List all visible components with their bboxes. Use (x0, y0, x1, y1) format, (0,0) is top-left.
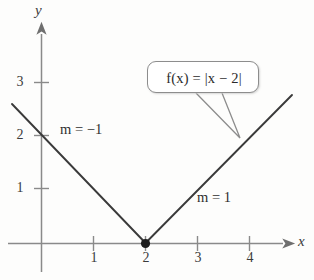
callout-tail (196, 93, 240, 138)
function-callout-text: f(x) = |x − 2| (148, 62, 260, 94)
vertex-point (141, 239, 150, 248)
x-tick-label-4: 4 (239, 250, 261, 266)
function-callout-box: f(x) = |x − 2| (147, 61, 259, 93)
y-tick-label-3: 3 (12, 74, 28, 90)
x-tick-label-3: 3 (187, 250, 209, 266)
x-tick-label-2: 2 (135, 250, 157, 266)
x-axis-label: x (298, 233, 305, 250)
y-axis-label: y (35, 2, 42, 19)
function-right-branch (146, 95, 293, 243)
graph-canvas (0, 0, 314, 280)
x-tick-label-1: 1 (83, 250, 105, 266)
right-slope-label: m = 1 (197, 189, 231, 206)
y-tick-label-2: 2 (12, 127, 28, 143)
left-slope-label: m = −1 (60, 121, 102, 138)
absolute-value-function-figure: y x 1 2 3 4 1 2 3 m = −1 m = 1 f(x) = |x… (0, 0, 314, 280)
y-tick-label-1: 1 (12, 180, 28, 196)
